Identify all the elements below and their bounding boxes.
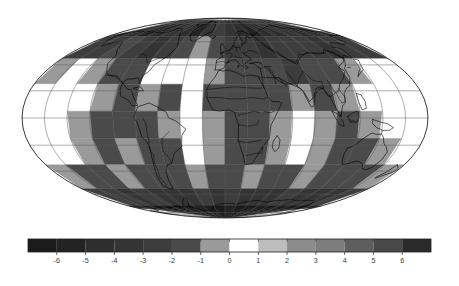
globe-contents bbox=[22, 18, 428, 218]
field-cell bbox=[90, 111, 115, 138]
colorbar-tick-label: 4 bbox=[343, 256, 347, 265]
field-cell bbox=[380, 111, 405, 138]
field-cell bbox=[291, 111, 315, 138]
field-cell bbox=[269, 111, 292, 138]
colorbar-band bbox=[143, 239, 172, 252]
field-cell bbox=[203, 111, 226, 138]
colorbar-tick-label: 3 bbox=[314, 256, 318, 265]
field-cell bbox=[112, 111, 136, 138]
field-cell bbox=[157, 84, 182, 111]
colorbar-tick-label: -5 bbox=[82, 256, 88, 265]
field-cell bbox=[225, 111, 248, 138]
map-panel bbox=[0, 0, 459, 232]
colorbar-tick-label: -4 bbox=[111, 256, 117, 265]
colorbar-band bbox=[345, 239, 374, 252]
figure-root: -6-5-4-3-2-10123456 bbox=[0, 0, 459, 286]
colorbar-tick-label: 6 bbox=[400, 256, 404, 265]
colorbar-band bbox=[373, 239, 402, 252]
world-map bbox=[0, 0, 459, 232]
anomaly-colorbar[interactable]: -6-5-4-3-2-10123456 bbox=[0, 232, 459, 286]
field-cell bbox=[45, 111, 70, 138]
colorbar-tick-label: -2 bbox=[169, 256, 175, 265]
colorbar-tick-label: -1 bbox=[198, 256, 204, 265]
colorbar-band bbox=[86, 239, 115, 252]
colorbar-band bbox=[57, 239, 86, 252]
colorbar-tick-label: 0 bbox=[228, 256, 232, 265]
colorbar-band bbox=[316, 239, 345, 252]
colorbar-tick-label: -6 bbox=[54, 256, 60, 265]
field-cell bbox=[157, 111, 180, 138]
colorbar-band bbox=[402, 239, 431, 252]
colorbar-band bbox=[258, 239, 287, 252]
colorbar-band bbox=[230, 239, 259, 252]
field-cell bbox=[247, 111, 270, 138]
field-cell bbox=[203, 138, 225, 164]
colorbar-tick-label: 5 bbox=[371, 256, 375, 265]
field-cell bbox=[204, 59, 225, 84]
colorbar-tick-labels: -6-5-4-3-2-10123456 bbox=[54, 256, 405, 265]
colorbar-tick-label: -3 bbox=[140, 256, 146, 265]
field-cell bbox=[225, 138, 247, 164]
field-cell bbox=[180, 111, 203, 138]
colorbar-tick-label: 1 bbox=[256, 256, 260, 265]
field-cell bbox=[225, 84, 248, 111]
field-cell bbox=[67, 111, 92, 138]
field-cell bbox=[180, 84, 204, 111]
colorbar-band bbox=[114, 239, 143, 252]
colorbar-band bbox=[201, 239, 230, 252]
colorbar-band bbox=[28, 239, 57, 252]
colorbar-tick-label: 2 bbox=[285, 256, 289, 265]
field-cell bbox=[335, 111, 360, 138]
colorbar-panel: -6-5-4-3-2-10123456 bbox=[0, 232, 459, 286]
colorbar-band bbox=[172, 239, 201, 252]
colorbar-band bbox=[287, 239, 316, 252]
field-cell bbox=[135, 111, 159, 138]
